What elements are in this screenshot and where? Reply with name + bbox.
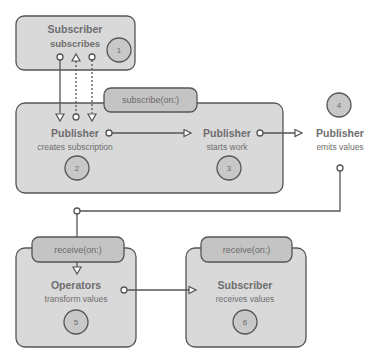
step-2-number: 2 (75, 164, 80, 173)
port-circle-icon (337, 165, 343, 171)
step-4: 4 Publisher emits values (316, 93, 364, 152)
publisher-container: subscribe(on:) Publisher creates subscri… (16, 88, 283, 193)
subscribe-on-label: subscribe(on:) (122, 95, 179, 105)
step-4-subtitle: emits values (316, 142, 363, 152)
step-6-box: receive(on:) Subscriber receives values … (186, 237, 306, 347)
step-1-title: Subscriber (48, 23, 103, 35)
port-circle-icon (73, 114, 79, 120)
port-circle-icon (74, 208, 80, 214)
step-5-number: 5 (74, 318, 79, 327)
step-6-number: 6 (243, 318, 248, 327)
port-circle-icon (121, 287, 127, 293)
step-5-box: receive(on:) Operators transform values … (16, 237, 136, 347)
step-5-subtitle: transform values (45, 294, 108, 304)
step-3-number: 3 (227, 164, 232, 173)
step-2-subtitle: creates subscription (37, 142, 113, 152)
step-6-title: Subscriber (218, 279, 273, 291)
port-circle-icon (89, 54, 95, 60)
combine-scheduling-diagram: Subscriber subscribes 1 subscribe(on:) P… (0, 0, 374, 363)
step-1-number: 1 (117, 46, 122, 55)
port-circle-icon (57, 54, 63, 60)
port-circle-icon (106, 130, 112, 136)
step-3-title: Publisher (203, 127, 251, 139)
step-2-title: Publisher (51, 127, 99, 139)
receive-on-label-operators: receive(on:) (54, 245, 102, 255)
step-4-title: Publisher (316, 127, 364, 139)
port-circle-icon (257, 130, 263, 136)
step-6-subtitle: receives values (216, 294, 275, 304)
step-4-number: 4 (337, 101, 342, 110)
step-3-subtitle: starts work (206, 142, 248, 152)
receive-on-label-subscriber: receive(on:) (223, 245, 271, 255)
step-1-subtitle: subscribes (50, 38, 100, 49)
step-5-title: Operators (51, 279, 101, 291)
